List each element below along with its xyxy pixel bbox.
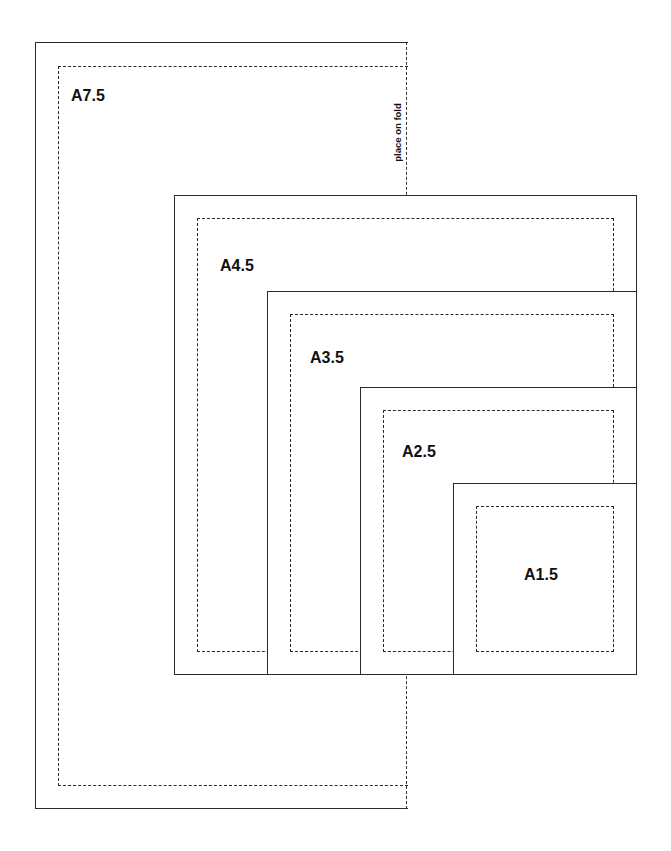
template-a3-label: A3.5	[310, 350, 344, 366]
template-a2-label: A2.5	[402, 444, 436, 460]
template-a4-label: A4.5	[220, 258, 254, 274]
fold-label: place on fold	[392, 98, 403, 168]
template-a1-label: A1.5	[524, 567, 558, 583]
template-a7-label: A7.5	[71, 88, 105, 104]
